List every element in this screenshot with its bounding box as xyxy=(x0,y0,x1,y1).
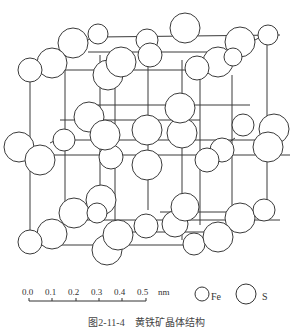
fe-legend-symbol xyxy=(195,287,209,301)
scale-tick-label: 0.3 xyxy=(91,287,102,297)
scale-tick-label: 0.1 xyxy=(45,287,56,297)
atoms xyxy=(4,13,289,265)
scale-tick-label: 0.2 xyxy=(68,287,79,297)
scale-tick-label: 0.4 xyxy=(114,287,125,297)
legend-label-s: S xyxy=(262,291,268,302)
s-legend-symbol xyxy=(236,284,256,304)
scale-bar xyxy=(29,298,146,301)
scale-unit: nm xyxy=(158,287,170,297)
scale-tick-label: 0.0 xyxy=(22,287,33,297)
legend-label-fe: Fe xyxy=(211,291,221,302)
figure-caption: 图2-11-4 黄铁矿晶体结构 xyxy=(0,314,293,329)
scale-tick-label: 0.5 xyxy=(137,287,148,297)
